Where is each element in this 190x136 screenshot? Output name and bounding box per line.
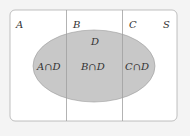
label-s: S [163,19,170,30]
venn-diagram: A B C S D A∩D B∩D C∩D [0,0,190,136]
label-c: C [129,19,137,30]
label-c-intersect-d: C∩D [125,61,149,72]
label-a: A [15,19,23,30]
label-d: D [90,36,99,47]
label-b: B [72,19,80,30]
label-a-intersect-d: A∩D [36,61,61,72]
label-b-intersect-d: B∩D [80,61,105,72]
